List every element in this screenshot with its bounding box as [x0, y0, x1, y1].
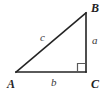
vertex-label-b: B — [91, 2, 99, 14]
right-angle-marker-icon — [78, 64, 86, 72]
side-label-vertical-a: a — [92, 35, 98, 46]
side-label-hypotenuse-c: c — [40, 32, 45, 43]
vertex-label-a: A — [7, 78, 15, 90]
side-label-base-b: b — [51, 77, 57, 88]
hypotenuse-line-c — [16, 13, 86, 72]
right-triangle-figure: A B C c a b — [0, 0, 107, 95]
vertex-label-c: C — [91, 78, 99, 90]
